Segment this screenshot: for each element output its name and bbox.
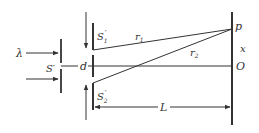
wavelength-label: λ bbox=[15, 47, 23, 60]
double-slit-diagram: λ S′ d S1′ S2′ r1 r2 p x O L bbox=[0, 0, 259, 133]
displacement-label: x bbox=[240, 43, 246, 54]
slit-separation-label: d bbox=[80, 60, 87, 73]
source-slit-label: S′ bbox=[46, 63, 56, 74]
point-p-label: p bbox=[235, 20, 242, 33]
slit1-label: S1′ bbox=[97, 28, 108, 44]
ray1-label: r1 bbox=[135, 31, 144, 43]
ray2-label: r2 bbox=[190, 47, 199, 59]
slit2-label: S2′ bbox=[97, 88, 108, 104]
distance-label: L bbox=[159, 101, 167, 114]
ray-r1 bbox=[93, 29, 232, 50]
origin-label: O bbox=[236, 60, 245, 73]
ray-r2 bbox=[93, 29, 232, 83]
